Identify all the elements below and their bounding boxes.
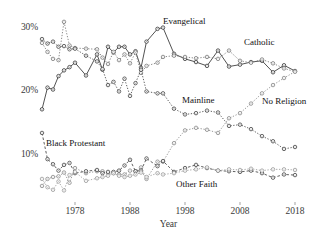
data-point-center (130, 159, 131, 160)
data-point-center (185, 168, 186, 169)
data-point-center (196, 58, 197, 59)
data-point-center (53, 41, 54, 42)
x-tick-label: 1978 (66, 206, 85, 216)
data-point-center (47, 51, 48, 52)
data-point-center (207, 57, 208, 58)
data-point-center (157, 161, 158, 162)
y-tick-label: 20% (21, 85, 38, 95)
data-point-center (69, 182, 70, 183)
data-point-center (174, 55, 175, 56)
data-point-center (47, 87, 48, 88)
data-point-center (157, 173, 158, 174)
data-point-center (97, 170, 98, 171)
data-point-center (284, 65, 285, 66)
series-line (42, 72, 295, 186)
data-point-center (97, 61, 98, 62)
data-point-center (157, 28, 158, 29)
data-point-center (86, 180, 87, 181)
data-point-center (273, 63, 274, 64)
data-point-center (69, 67, 70, 68)
plot-area (0, 0, 321, 236)
data-point-center (262, 173, 263, 174)
data-point-center (229, 125, 230, 126)
data-point-center (262, 59, 263, 60)
data-point-center (207, 167, 208, 168)
data-point-center (86, 48, 87, 49)
data-point-center (64, 164, 65, 165)
data-point-center (295, 147, 296, 148)
data-point-center (262, 136, 263, 137)
data-point-center (157, 166, 158, 167)
data-point-center (163, 161, 164, 162)
data-point-center (135, 171, 136, 172)
data-point-center (146, 91, 147, 92)
data-point-center (42, 109, 43, 110)
series-label-catholic: Catholic (244, 37, 275, 47)
data-point-center (141, 72, 142, 73)
data-point-center (135, 83, 136, 84)
data-point-center (251, 62, 252, 63)
data-point-center (157, 62, 158, 63)
data-point-center (185, 114, 186, 115)
data-point-center (102, 57, 103, 58)
data-point-center (174, 108, 175, 109)
data-point-center (102, 173, 103, 174)
data-point-center (42, 178, 43, 179)
data-point-center (47, 178, 48, 179)
data-point-center (146, 65, 147, 66)
series-line (42, 167, 295, 190)
data-point-center (113, 51, 114, 52)
series-line (42, 22, 295, 73)
series-mainline (40, 37, 297, 150)
data-point-center (196, 164, 197, 165)
data-point-center (273, 141, 274, 142)
data-point-center (58, 170, 59, 171)
series-label-mainline: Mainline (182, 95, 215, 105)
data-point-center (163, 93, 164, 94)
data-point-center (174, 143, 175, 144)
data-point-center (108, 64, 109, 65)
data-point-center (53, 58, 54, 59)
data-point-center (64, 70, 65, 71)
data-point-center (207, 65, 208, 66)
data-point-center (108, 175, 109, 176)
data-point-center (58, 181, 59, 182)
data-point-center (124, 177, 125, 178)
data-point-center (75, 168, 76, 169)
data-point-center (42, 186, 43, 187)
series-line (42, 39, 295, 149)
data-point-center (157, 93, 158, 94)
data-point-center (284, 68, 285, 69)
data-point-center (119, 175, 120, 176)
x-tick-label: 1988 (121, 206, 140, 216)
data-point-center (141, 69, 142, 70)
data-point-center (207, 110, 208, 111)
data-point-center (64, 172, 65, 173)
data-point-center (130, 95, 131, 96)
data-point-center (163, 174, 164, 175)
x-tick-label: 1998 (176, 206, 195, 216)
data-point-center (86, 75, 87, 76)
data-point-center (273, 72, 274, 73)
data-point-center (58, 176, 59, 177)
data-point-center (113, 173, 114, 174)
data-point-center (97, 54, 98, 55)
data-point-center (185, 170, 186, 171)
data-point-center (295, 71, 296, 72)
data-point-center (53, 177, 54, 178)
data-point-center (69, 163, 70, 164)
data-point-center (146, 41, 147, 42)
data-point-center (69, 175, 70, 176)
data-point-center (119, 91, 120, 92)
data-point-center (64, 190, 65, 191)
data-point-center (102, 69, 103, 70)
data-point-center (196, 127, 197, 128)
data-point-center (163, 27, 164, 28)
data-point-center (64, 46, 65, 47)
data-point-center (69, 45, 70, 46)
data-point-center (251, 103, 252, 104)
x-tick-label: 2018 (286, 206, 305, 216)
data-point-center (47, 43, 48, 44)
data-point-center (75, 171, 76, 172)
data-point-center (108, 46, 109, 47)
